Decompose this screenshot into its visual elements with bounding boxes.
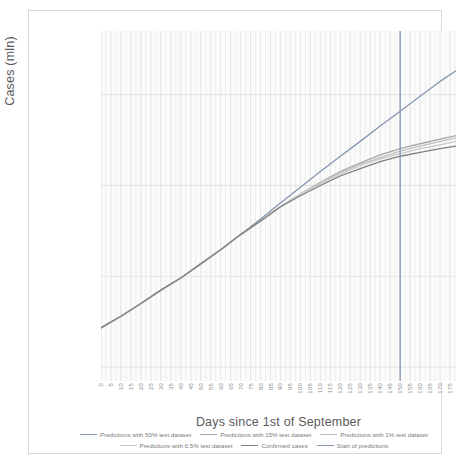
x-axis-tick-label: 65 xyxy=(228,383,234,390)
x-axis-tick-label: 145 xyxy=(387,383,393,394)
x-axis-tick-label: 100 xyxy=(297,383,303,394)
x-axis-tick-label: 60 xyxy=(218,383,224,390)
x-axis-tick-label: 50 xyxy=(198,383,204,390)
x-axis-tick-label: 75 xyxy=(248,383,254,390)
series-line xyxy=(101,71,456,328)
legend-item[interactable]: Start of predictions xyxy=(317,442,389,449)
x-axis-tick-label: 35 xyxy=(168,383,174,390)
legend-row: Predictions with 0.5% test datasetConfir… xyxy=(59,440,449,451)
x-axis-tick-label: 130 xyxy=(357,383,363,394)
series-lines xyxy=(101,31,456,381)
x-axis-tick-label: 90 xyxy=(277,383,283,390)
legend-swatch-icon xyxy=(120,445,137,447)
x-axis-tick-label: 0 xyxy=(98,383,104,387)
legend-swatch-icon xyxy=(80,434,97,436)
legend-label: Start of predictions xyxy=(337,442,389,449)
x-axis-tick-label: 55 xyxy=(208,383,214,390)
series-line xyxy=(101,138,456,328)
legend-item[interactable]: Predictions with 1% test dataset xyxy=(320,431,428,438)
legend-item[interactable]: Predictions with 0.5% test dataset xyxy=(120,442,233,449)
x-axis-tick-label: 175 xyxy=(447,383,453,394)
x-axis-tick-label: 165 xyxy=(427,383,433,394)
x-axis-tick-label: 70 xyxy=(238,383,244,390)
x-axis-tick-label: 20 xyxy=(138,383,144,390)
x-axis-tick-label: 40 xyxy=(178,383,184,390)
x-axis-title: Days since 1st of September xyxy=(101,415,456,429)
chart-screenshot: Cases (mln) 160804020 051015202530354045… xyxy=(0,0,472,463)
legend-label: Predictions with 0.5% test dataset xyxy=(140,442,233,449)
x-axis-tick-label: 155 xyxy=(407,383,413,394)
x-axis-tick-label: 85 xyxy=(268,383,274,390)
legend-swatch-icon xyxy=(200,434,217,436)
legend-label: Confirmed cases xyxy=(261,442,307,449)
x-axis-tick-label: 5 xyxy=(108,383,114,387)
legend-label: Predictions with 1% test dataset xyxy=(340,431,428,438)
x-axis-tick-label: 160 xyxy=(417,383,423,394)
x-axis-tick-label: 30 xyxy=(158,383,164,390)
series-line xyxy=(101,141,456,327)
legend-label: Predictions with 15% test dataset xyxy=(220,431,311,438)
plot-area xyxy=(101,31,456,381)
chart-legend: Predictions with 50% test datasetPredict… xyxy=(59,429,449,451)
x-axis-tick-label: 15 xyxy=(128,383,134,390)
legend-item[interactable]: Predictions with 15% test dataset xyxy=(200,431,311,438)
series-line xyxy=(101,136,456,328)
y-axis-title: Cases (mln) xyxy=(3,0,17,151)
x-axis-tick-label: 25 xyxy=(148,383,154,390)
x-axis-tick-label: 170 xyxy=(437,383,443,394)
x-axis-tick-label: 95 xyxy=(287,383,293,390)
legend-swatch-icon xyxy=(241,445,258,447)
legend-item[interactable]: Predictions with 50% test dataset xyxy=(80,431,191,438)
series-line xyxy=(101,146,456,328)
x-axis-tick-label: 125 xyxy=(347,383,353,394)
chart-frame: Cases (mln) 160804020 051015202530354045… xyxy=(28,10,442,454)
x-axis-tick-label: 115 xyxy=(327,383,333,393)
x-axis-tick-label: 45 xyxy=(188,383,194,390)
legend-label: Predictions with 50% test dataset xyxy=(100,431,191,438)
legend-item[interactable]: Confirmed cases xyxy=(241,442,307,449)
x-axis-tick-label: 140 xyxy=(377,383,383,394)
x-axis-tick-labels: 0510152025303540455055606570758085909510… xyxy=(101,383,456,417)
x-axis-tick-label: 10 xyxy=(118,383,124,390)
x-axis-tick-label: 105 xyxy=(307,383,313,394)
x-axis-tick-label: 150 xyxy=(397,383,403,394)
x-axis-tick-label: 120 xyxy=(337,383,343,394)
x-axis-tick-label: 110 xyxy=(317,383,323,393)
legend-swatch-icon xyxy=(317,445,334,447)
x-axis-tick-label: 80 xyxy=(258,383,264,390)
x-axis-tick-label: 135 xyxy=(367,383,373,394)
legend-swatch-icon xyxy=(320,434,337,436)
legend-row: Predictions with 50% test datasetPredict… xyxy=(59,429,449,440)
